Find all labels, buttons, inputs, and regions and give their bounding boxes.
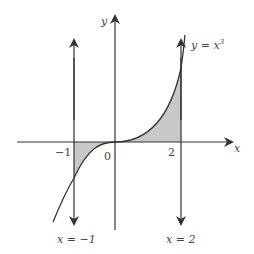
label-x-2: x = 2 <box>166 233 195 246</box>
tick-label-0: 0 <box>104 150 111 163</box>
x-axis-label: x <box>234 142 241 155</box>
label-x-neg1: x = −1 <box>57 233 96 246</box>
tick-label-neg1: −1 <box>55 146 71 159</box>
diagram-canvas: y x −1 0 2 y = x3 x = −1 x = 2 <box>0 0 254 254</box>
tick-label-2: 2 <box>168 146 175 159</box>
curve-label: y = x3 <box>190 38 225 52</box>
y-axis-label: y <box>100 15 108 28</box>
